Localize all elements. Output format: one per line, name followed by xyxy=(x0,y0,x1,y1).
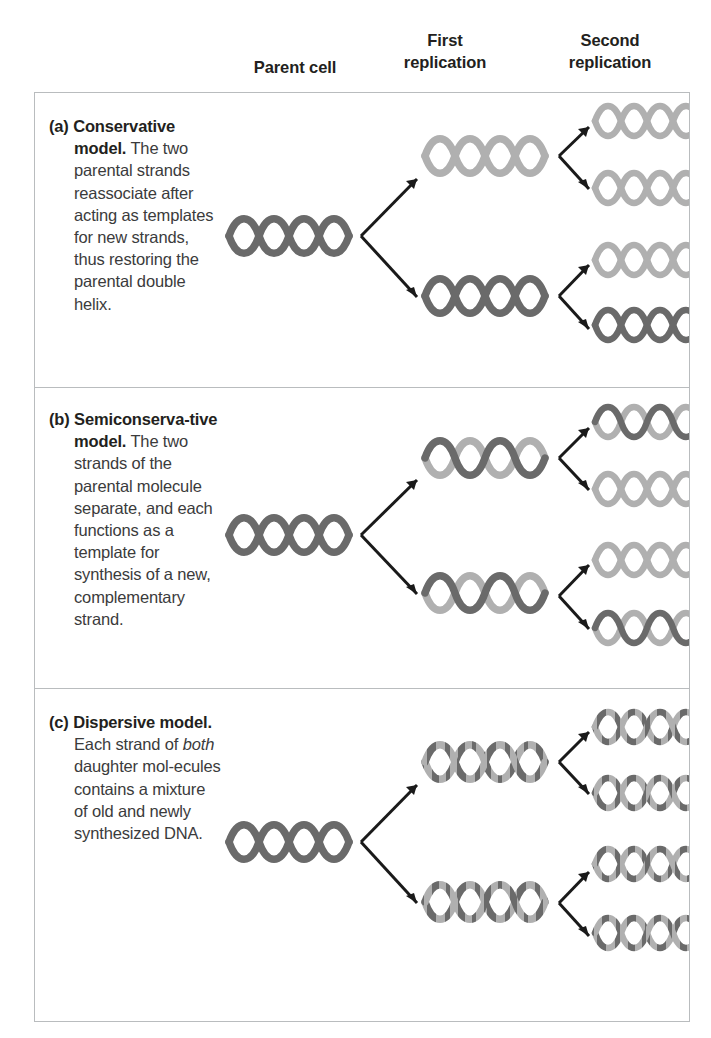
arrow-parent-to-first-b-top xyxy=(361,480,417,535)
arrow-first-to-second-a-1 xyxy=(559,127,589,156)
figure-box: (a) Conservative model. The two parental… xyxy=(34,92,690,1022)
arrow-first-to-second-b-1 xyxy=(559,428,589,458)
diagram-stage-a xyxy=(221,93,689,387)
arrow-first-to-second-c-3 xyxy=(559,872,589,903)
helix-second-b-1 xyxy=(595,407,689,437)
arrow-first-to-second-b-3 xyxy=(559,565,589,596)
helix-parent-c xyxy=(229,825,349,860)
arrow-parent-to-first-c-top xyxy=(361,785,417,842)
arrow-first-to-second-a-2 xyxy=(559,156,589,189)
panel-marker-a: (a) xyxy=(49,117,69,135)
arrow-first-to-second-b-2 xyxy=(559,458,589,490)
helix-diagram-c xyxy=(221,689,689,1022)
helix-second-c-2 xyxy=(595,778,689,808)
helix-second-c-1 xyxy=(595,712,689,742)
helix-first-c-1 xyxy=(425,745,545,780)
helix-parent-a xyxy=(229,219,349,254)
panel-body-c-emphasis: both xyxy=(183,735,215,753)
arrow-parent-to-first-b-bottom xyxy=(361,535,417,594)
helix-second-a-4 xyxy=(595,310,689,340)
helix-second-c-4 xyxy=(595,918,689,948)
column-header-second-line1: Second xyxy=(530,30,690,52)
helix-first-a-2 xyxy=(425,279,545,314)
helix-second-a-2 xyxy=(595,173,689,203)
caption-semiconservative-model: (b) Semiconserva-tive model. The two str… xyxy=(49,408,221,630)
panel-body-c-run3: daughter mol-ecules contains a mixture o… xyxy=(74,757,221,842)
arrow-first-to-second-c-1 xyxy=(559,732,589,762)
panel-dispersive-model: (c) Dispersive model. Each strand of bot… xyxy=(35,688,689,1021)
caption-dispersive-model: (c) Dispersive model. Each strand of bot… xyxy=(49,711,221,844)
panel-semiconservative-model: (b) Semiconserva-tive model. The two str… xyxy=(35,387,689,688)
arrow-parent-to-first-c-bottom xyxy=(361,842,417,903)
helix-parent-b xyxy=(229,518,349,553)
helix-diagram-b xyxy=(221,388,689,688)
panel-title-c: Dispersive model. xyxy=(73,713,212,731)
column-header-parent-cell: Parent cell xyxy=(205,57,385,79)
panel-marker-b: (b) xyxy=(49,410,70,428)
arrow-first-to-second-a-4 xyxy=(559,296,589,329)
column-header-first-replication: First replication xyxy=(370,30,520,74)
column-header-first-line1: First xyxy=(370,30,520,52)
arrow-first-to-second-a-3 xyxy=(559,265,589,296)
helix-second-b-2 xyxy=(595,474,689,504)
panel-body-c-run1: Each strand of xyxy=(74,735,183,753)
helix-diagram-a xyxy=(221,93,689,387)
column-headers: Parent cell First replication Second rep… xyxy=(0,0,711,92)
helix-first-b-1 xyxy=(425,441,545,476)
arrow-first-to-second-c-4 xyxy=(559,903,589,936)
arrow-first-to-second-b-4 xyxy=(559,596,589,629)
helix-first-b-2 xyxy=(425,576,545,611)
column-header-first-line2: replication xyxy=(370,52,520,74)
panel-marker-c: (c) xyxy=(49,713,69,731)
panel-conservative-model: (a) Conservative model. The two parental… xyxy=(35,93,689,387)
arrow-first-to-second-c-2 xyxy=(559,762,589,794)
diagram-stage-b xyxy=(221,388,689,688)
helix-second-a-3 xyxy=(595,245,689,275)
helix-first-a-1 xyxy=(425,139,545,174)
column-header-second-line2: replication xyxy=(530,52,690,74)
helix-second-a-1 xyxy=(595,106,689,136)
panel-body-a: The two parental strands reassociate aft… xyxy=(74,139,213,312)
diagram-stage-c xyxy=(221,689,689,1021)
helix-second-b-3 xyxy=(595,545,689,575)
helix-first-c-2 xyxy=(425,885,545,920)
arrow-parent-to-first-a-bottom xyxy=(361,236,417,297)
helix-second-b-4 xyxy=(595,613,689,643)
panel-body-b: The two strands of the parental molecule… xyxy=(74,432,213,628)
caption-conservative-model: (a) Conservative model. The two parental… xyxy=(49,115,221,315)
arrow-parent-to-first-a-top xyxy=(361,179,417,236)
column-header-second-replication: Second replication xyxy=(530,30,690,74)
helix-second-c-3 xyxy=(595,849,689,879)
